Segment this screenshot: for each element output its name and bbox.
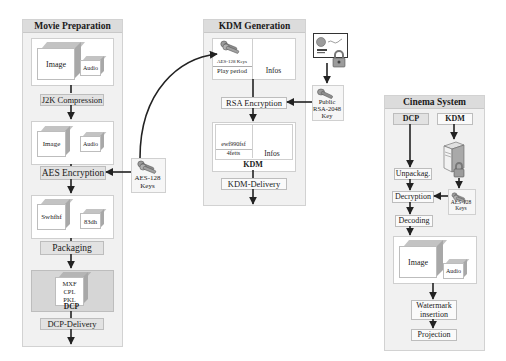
- dcp-input: DCP: [393, 113, 429, 125]
- decoding-step: Decoding: [395, 215, 433, 227]
- aes-encryption-step: AES Encryption: [40, 166, 106, 180]
- image-label: Image: [37, 48, 75, 80]
- j2k-compression-step: J2K Compression: [40, 94, 104, 106]
- encrypted-image-label: Swhfhf: [37, 204, 66, 230]
- aes-keys-line1: AES-128: [131, 174, 164, 182]
- watermark-step: Watermark insertion: [411, 300, 457, 320]
- unpackage-step: Unpackag.: [394, 168, 432, 180]
- keys-icon-kdm: [220, 40, 242, 54]
- play-period-label: Play period: [212, 67, 252, 74]
- audio-label-compressed: Audio: [80, 136, 101, 152]
- dcp-delivery-step: DCP-Delivery: [40, 318, 104, 330]
- encrypted-keys-line2: 4fetts: [215, 150, 252, 156]
- movie-preparation-title: Movie Preparation: [23, 20, 122, 33]
- infos-label: Infos: [253, 66, 294, 75]
- aes-keys-source-label: AES-128 Keys: [131, 174, 164, 190]
- keys-icon: [137, 160, 159, 174]
- watermark-line2: insertion: [412, 310, 456, 319]
- cinema-system-title: Cinema System: [385, 96, 484, 109]
- aes-keys-line2: Keys: [131, 182, 164, 190]
- packaging-step: Packaging: [40, 241, 104, 255]
- projection-step: Projection: [411, 329, 457, 341]
- lock-icon-cinema: [452, 162, 466, 178]
- public-key-line2: RSA-2048: [311, 105, 343, 112]
- rsa-encryption-step: RSA Encryption: [221, 97, 287, 109]
- dcp-label: DCP: [31, 302, 112, 311]
- kdm-input: KDM: [437, 113, 473, 125]
- dcp-file-cpl: CPL: [64, 288, 76, 296]
- kdm-keys-label: AES-128 Keys: [212, 59, 252, 64]
- image-label-compressed: Image: [37, 131, 66, 157]
- encrypted-keys-line1: ewf990fsf: [215, 141, 252, 147]
- kdm-delivery-step: KDM-Delivery: [221, 178, 287, 190]
- public-key-line3: Key: [311, 112, 343, 119]
- cinema-keys-line2: Keys: [447, 205, 475, 211]
- lock-icon: [330, 50, 348, 68]
- public-key-line1: Public: [311, 98, 343, 105]
- dcp-file-mxf: MXF: [62, 280, 76, 288]
- decoded-image-label: Image: [399, 246, 437, 278]
- decoded-audio-label: Audio: [443, 263, 464, 279]
- decryption-step: Decryption: [392, 191, 434, 203]
- kdm-label: KDM: [212, 160, 294, 169]
- key-icon-public: [316, 86, 336, 98]
- aes-keys-cinema-label: AES-128 Keys: [447, 199, 475, 211]
- kdm-generation-title: KDM Generation: [204, 20, 305, 33]
- watermark-line1: Watermark: [412, 301, 456, 310]
- encrypted-audio-label: 83dh: [80, 213, 101, 229]
- audio-label: Audio: [80, 60, 101, 76]
- infos-label-encrypted: Infos: [253, 149, 291, 158]
- public-key-label: Public RSA-2048 Key: [311, 98, 343, 119]
